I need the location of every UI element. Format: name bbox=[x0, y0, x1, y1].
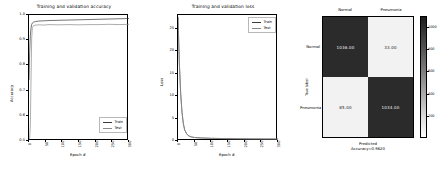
cm-value: 1036.00 bbox=[337, 45, 355, 50]
legend-item-train[interactable]: Train bbox=[103, 120, 123, 124]
x-tick-label: 50 bbox=[194, 142, 198, 147]
x-tick-mark bbox=[128, 140, 129, 142]
accuracy-train-line bbox=[29, 19, 129, 80]
x-tick-label: 200 bbox=[95, 141, 99, 148]
colorbar-tick-mark bbox=[427, 71, 429, 72]
cm-value: 33.00 bbox=[384, 45, 396, 50]
x-tick-label: 50 bbox=[45, 142, 49, 147]
matplotlib-figure: Training and validation accuracy 0.50.60… bbox=[0, 0, 446, 172]
legend-item-test[interactable]: Test bbox=[103, 126, 123, 130]
y-tick-mark bbox=[26, 39, 28, 40]
x-tick-label: 150 bbox=[78, 141, 82, 148]
x-tick-mark bbox=[28, 140, 29, 142]
legend-label-test: Test bbox=[264, 26, 271, 30]
accuracy-legend[interactable]: Train Test bbox=[99, 117, 127, 133]
accuracy-chart-title: Training and validation accuracy bbox=[0, 4, 148, 10]
x-tick-label: 100 bbox=[210, 141, 214, 148]
cm-cell-true-normal-pred-pneumonia: 33.00 bbox=[368, 17, 413, 77]
legend-item-test[interactable]: Test bbox=[252, 26, 272, 30]
loss-test-line bbox=[178, 18, 278, 139]
x-tick-mark bbox=[277, 140, 278, 142]
x-tick-mark bbox=[45, 140, 46, 142]
loss-legend[interactable]: Train Test bbox=[248, 17, 276, 33]
legend-line-train-icon bbox=[103, 122, 112, 123]
y-tick-label: 5 bbox=[172, 116, 174, 120]
y-tick-mark bbox=[175, 95, 177, 96]
cm-col-header-pneumonia: Pneumonia bbox=[380, 7, 401, 12]
legend-label-train: Train bbox=[264, 20, 273, 24]
cm-x-axis-label-block: Predicted Accuracy=0.9620 bbox=[322, 141, 414, 151]
y-tick-label: 0.6 bbox=[19, 113, 25, 117]
y-tick-mark bbox=[26, 90, 28, 91]
y-tick-mark bbox=[175, 50, 177, 51]
colorbar-tick-mark bbox=[427, 49, 429, 50]
cm-row-header-normal: Normal bbox=[300, 44, 320, 49]
x-tick-mark bbox=[244, 140, 245, 142]
colorbar-tick-label: 800 bbox=[428, 47, 434, 51]
y-tick-label: 0.8 bbox=[19, 62, 25, 66]
x-tick-mark bbox=[177, 140, 178, 142]
colorbar-tick-label: 600 bbox=[428, 69, 434, 73]
accuracy-y-axis-label: Accuracy bbox=[9, 85, 14, 102]
x-tick-mark bbox=[194, 140, 195, 142]
x-tick-label: 300 bbox=[277, 141, 281, 148]
cm-row-header-pneumonia: Pneumonia bbox=[300, 105, 320, 110]
cm-cell-true-pneumonia-pred-normal: 85.00 bbox=[323, 77, 368, 137]
cm-accuracy-text: Accuracy=0.9620 bbox=[322, 146, 414, 151]
y-tick-label: 1.0 bbox=[19, 12, 25, 16]
x-tick-label: 100 bbox=[61, 141, 65, 148]
x-tick-label: 250 bbox=[111, 141, 115, 148]
x-tick-label: 300 bbox=[128, 141, 132, 148]
y-tick-label: 0.7 bbox=[19, 88, 25, 92]
colorbar-tick-mark bbox=[427, 94, 429, 95]
x-tick-label: 0 bbox=[28, 143, 32, 145]
y-tick-label: 10 bbox=[169, 93, 174, 97]
colorbar-tick-label: 400 bbox=[428, 92, 434, 96]
confusion-matrix-panel: Normal Pneumonia Normal Pneumonia True l… bbox=[298, 0, 446, 172]
colorbar-tick-mark bbox=[427, 27, 429, 28]
accuracy-x-axis-label: Epoch # bbox=[70, 152, 86, 157]
y-tick-label: 0 bbox=[172, 138, 174, 142]
cm-value: 1034.00 bbox=[382, 105, 400, 110]
x-tick-label: 0 bbox=[177, 143, 181, 145]
x-tick-mark bbox=[61, 140, 62, 142]
x-tick-mark bbox=[78, 140, 79, 142]
x-tick-mark bbox=[260, 140, 261, 142]
legend-label-train: Train bbox=[115, 120, 124, 124]
colorbar-tick-mark bbox=[427, 116, 429, 117]
y-tick-label: 0.9 bbox=[19, 37, 25, 41]
x-tick-label: 150 bbox=[227, 141, 231, 148]
y-tick-label: 0.5 bbox=[19, 138, 25, 142]
loss-x-axis-label: Epoch # bbox=[219, 152, 235, 157]
colorbar bbox=[420, 16, 427, 138]
y-tick-label: 20 bbox=[169, 48, 174, 52]
colorbar-tick-label: 200 bbox=[428, 114, 434, 118]
x-tick-mark bbox=[95, 140, 96, 142]
cm-cell-true-pneumonia-pred-pneumonia: 1034.00 bbox=[368, 77, 413, 137]
cm-col-header-normal: Normal bbox=[338, 7, 352, 12]
y-tick-mark bbox=[26, 14, 28, 15]
legend-line-train-icon bbox=[252, 22, 261, 23]
legend-item-train[interactable]: Train bbox=[252, 20, 272, 24]
loss-y-axis-label: Loss bbox=[159, 78, 164, 86]
loss-train-line bbox=[178, 17, 278, 139]
y-tick-mark bbox=[175, 73, 177, 74]
legend-line-test-icon bbox=[103, 128, 112, 129]
y-tick-mark bbox=[26, 115, 28, 116]
cm-y-axis-label: True label bbox=[305, 79, 309, 96]
x-tick-label: 200 bbox=[244, 141, 248, 148]
x-tick-mark bbox=[210, 140, 211, 142]
accuracy-chart-panel: Training and validation accuracy 0.50.60… bbox=[0, 0, 148, 172]
cm-cell-true-normal-pred-normal: 1036.00 bbox=[323, 17, 368, 77]
loss-series-svg bbox=[178, 15, 278, 141]
cm-value: 85.00 bbox=[339, 105, 351, 110]
colorbar-tick-label: 1000 bbox=[428, 25, 437, 29]
y-tick-mark bbox=[175, 118, 177, 119]
legend-label-test: Test bbox=[115, 126, 122, 130]
loss-chart-panel: Training and validation loss 0510152025 … bbox=[149, 0, 297, 172]
confusion-matrix-grid: 1036.00 33.00 85.00 1034.00 bbox=[322, 16, 414, 138]
y-tick-mark bbox=[175, 28, 177, 29]
y-tick-label: 15 bbox=[169, 71, 174, 75]
y-tick-label: 25 bbox=[169, 26, 174, 30]
loss-chart-title: Training and validation loss bbox=[149, 4, 297, 10]
